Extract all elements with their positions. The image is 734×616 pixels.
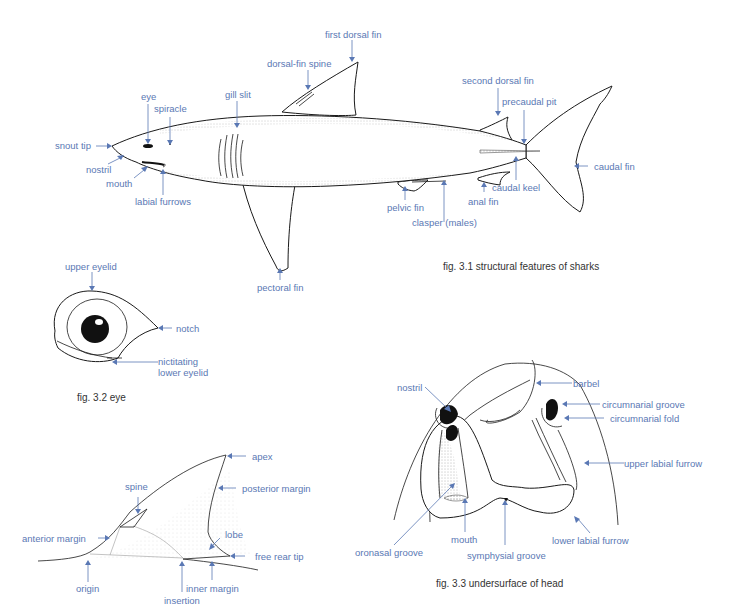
label-notch: notch [176,324,199,334]
label-circumnarial-groove: circumnarial groove [602,400,685,410]
label-spine: spine [125,482,148,492]
shark-illustration [112,62,612,271]
diagram-canvas [0,0,734,616]
label-caudal-fin: caudal fin [594,162,635,172]
label-upper-eyelid: upper eyelid [65,262,117,272]
label-upper-labial-furrow: upper labial furrow [624,459,702,469]
caption-fig-3-3: fig. 3.3 undersurface of head [436,579,563,589]
label-anterior-margin: anterior margin [22,534,86,544]
label-caudal-keel: caudal keel [492,183,540,193]
label-pelvic-fin: pelvic fin [387,203,424,213]
label-apex: apex [252,452,273,462]
label-second-dorsal-fin: second dorsal fin [462,76,534,86]
label-nostril: nostril [86,165,111,175]
label-labial-furrows: labial furrows [135,197,191,207]
caption-fig-3-1: fig. 3.1 structural features of sharks [443,262,599,272]
label-lobe: lobe [225,530,243,540]
label-symphysial-groove: symphysial groove [467,551,546,561]
eye-illustration [54,291,158,362]
label-barbel: barbel [573,379,599,389]
caption-fig-3-2: fig. 3.2 eye [77,393,126,403]
label-posterior-margin: posterior margin [242,484,311,494]
label-precaudal-pit: precaudal pit [502,97,556,107]
label-clasper: clasper (males) [412,218,477,228]
label-nostril-head: nostril [397,383,422,393]
label-circumnarial-fold: circumnarial fold [610,414,679,424]
label-origin: origin [76,584,99,594]
label-lower-eyelid: lower eyelid [158,368,208,378]
label-anal-fin: anal fin [468,197,499,207]
label-nictitating: nictitating [158,357,198,367]
label-gill-slit: gill slit [225,90,251,100]
label-dorsal-fin-spine: dorsal-fin spine [267,59,331,69]
label-insertion: insertion [164,596,200,606]
label-free-rear-tip: free rear tip [255,552,304,562]
label-lower-labial-furrow: lower labial furrow [552,536,629,546]
label-inner-margin: inner margin [186,584,239,594]
fin-illustration [38,455,258,570]
label-snout-tip: snout tip [55,141,91,151]
label-spiracle: spiracle [154,104,187,114]
label-mouth: mouth [106,179,132,189]
label-eye: eye [141,92,156,102]
label-mouth-head: mouth [451,535,477,545]
label-pectoral-fin: pectoral fin [257,283,303,293]
label-oronasal-groove: oronasal groove [355,548,423,558]
label-first-dorsal-fin: first dorsal fin [325,30,382,40]
